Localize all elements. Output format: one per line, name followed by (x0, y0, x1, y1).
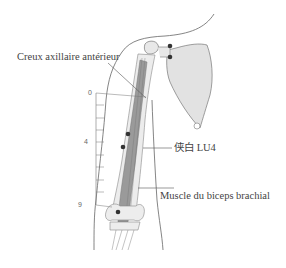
arm-point-upper-icon (126, 132, 131, 137)
shoulder-point-lower-icon (168, 55, 173, 60)
scapula-inferior-angle-icon (194, 123, 200, 129)
forearm-lines (112, 230, 134, 250)
arm-outer-outline (152, 100, 163, 250)
forearm-bones (110, 222, 140, 230)
scale-tick-0: 0 (88, 89, 92, 96)
elbow-point-icon (116, 210, 121, 215)
lu4-point-icon (121, 145, 126, 150)
biceps-label: Muscle du biceps brachial (160, 191, 270, 202)
axilla-label: Creux axillaire antérieur (17, 52, 120, 63)
lu4-label: 侠白 LU4 (174, 143, 216, 154)
elbow-joint (105, 204, 144, 221)
acromion (158, 47, 170, 57)
scale-tick-9: 9 (78, 201, 82, 208)
arm-anatomy-diagram (0, 0, 286, 268)
shoulder-point-upper-icon (168, 44, 173, 49)
humeral-head (144, 41, 158, 54)
scale-tick-4: 4 (84, 138, 88, 145)
scapula (167, 44, 212, 128)
